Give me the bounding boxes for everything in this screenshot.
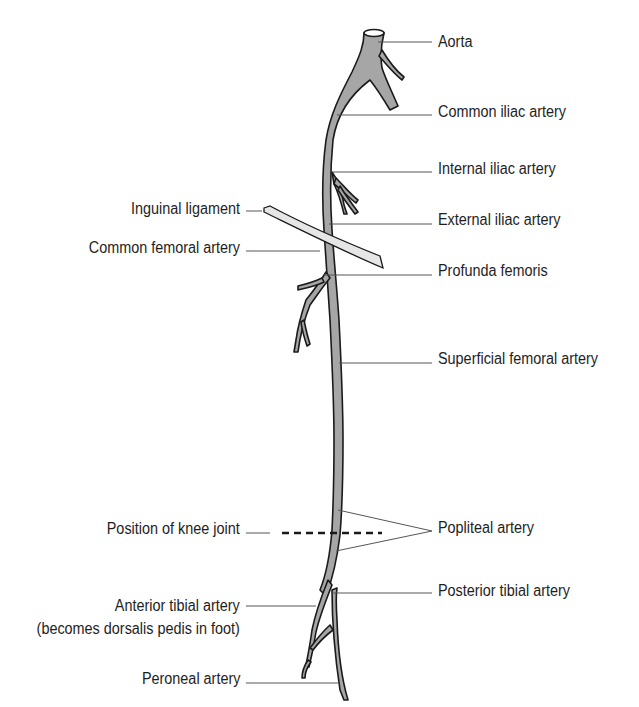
label-anterior-tibial-note: (becomes dorsalis pedis in foot) (37, 620, 240, 638)
label-external-iliac-artery: External iliac artery (438, 211, 560, 229)
aorta-lumen (364, 30, 384, 37)
leader-lines (246, 42, 432, 683)
label-position-of-knee-joint: Position of knee joint (107, 520, 240, 538)
label-internal-iliac-artery: Internal iliac artery (438, 160, 556, 178)
lower-limb-arteries-diagram: Aorta Common iliac artery Internal iliac… (0, 0, 639, 707)
label-popliteal-artery: Popliteal artery (438, 519, 534, 537)
label-common-iliac-artery: Common iliac artery (438, 103, 566, 121)
label-profunda-femoris: Profunda femoris (438, 262, 548, 280)
label-inguinal-ligament: Inguinal ligament (131, 200, 240, 218)
main-artery-vessel (320, 33, 398, 596)
label-posterior-tibial-artery: Posterior tibial artery (438, 582, 570, 600)
label-anterior-tibial-artery: Anterior tibial artery (115, 597, 240, 615)
label-common-femoral-artery: Common femoral artery (89, 239, 240, 257)
anterior-tibial-branch (306, 580, 332, 667)
label-superficial-femoral-artery: Superficial femoral artery (438, 350, 598, 368)
label-peroneal-artery: Peroneal artery (142, 670, 240, 688)
label-aorta: Aorta (438, 33, 472, 51)
